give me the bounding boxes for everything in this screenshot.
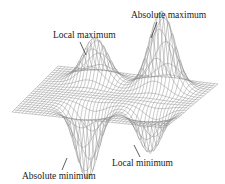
- label-absolute-minimum: Absolute minimum: [22, 171, 96, 181]
- label-absolute-maximum: Absolute maximum: [131, 10, 206, 20]
- surface-plot: [0, 0, 225, 184]
- label-local-minimum: Local minimum: [112, 158, 173, 168]
- label-local-maximum: Local maximum: [53, 30, 116, 40]
